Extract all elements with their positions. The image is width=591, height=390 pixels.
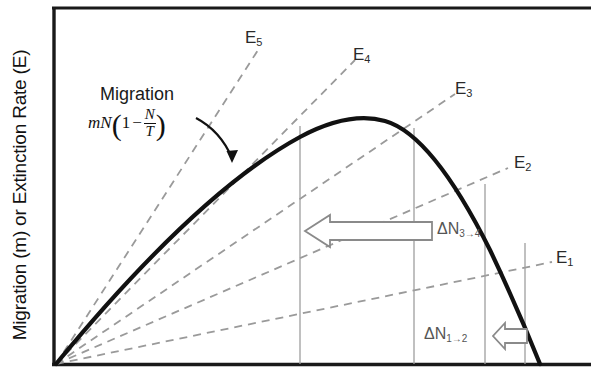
- label-E2-subscript: 2: [525, 161, 531, 173]
- label-E1-letter: E: [556, 248, 567, 267]
- label-E3-subscript: 3: [466, 87, 472, 99]
- formula-denominator: T: [144, 124, 156, 140]
- label-E5-subscript: 5: [256, 36, 262, 48]
- label-E3-letter: E: [455, 79, 466, 98]
- label-E2: E2: [514, 153, 531, 173]
- label-E4: E4: [353, 45, 370, 65]
- label-E1-subscript: 1: [567, 256, 573, 268]
- formula-minus: −: [130, 113, 144, 132]
- label-delta-n12-prefix: ΔN: [424, 325, 446, 342]
- label-E5-letter: E: [245, 28, 256, 47]
- migration-curve: [56, 118, 540, 364]
- delta-n12-arrow: [493, 323, 527, 349]
- figure-container: Migration (m) or Extinction Rate (E) Mig…: [0, 0, 591, 390]
- callout-arrow-head: [227, 150, 239, 163]
- formula-one: 1: [122, 113, 131, 132]
- migration-title: Migration: [100, 84, 174, 105]
- formula-close-paren: ): [156, 108, 166, 141]
- label-E5: E5: [245, 28, 262, 48]
- label-delta-n34-prefix: ΔN: [437, 220, 459, 237]
- label-E4-letter: E: [353, 45, 364, 64]
- plot-area: [0, 0, 591, 390]
- label-delta-n34-subscript: 3→4: [459, 228, 480, 239]
- label-delta-n12-subscript: 1→2: [446, 333, 467, 344]
- formula-numerator: N: [144, 107, 156, 124]
- delta-n34-arrow: [305, 215, 432, 247]
- formula-coefficient: mN: [88, 113, 112, 132]
- label-E1: E1: [556, 248, 573, 268]
- extinction-line-E4: [56, 60, 355, 364]
- formula-open-paren: (: [112, 108, 122, 141]
- label-delta-n34: ΔN3→4: [437, 220, 480, 238]
- formula-fraction: NT: [144, 107, 156, 140]
- label-E4-subscript: 4: [364, 53, 370, 65]
- label-E3: E3: [455, 79, 472, 99]
- label-E2-letter: E: [514, 153, 525, 172]
- label-delta-n12: ΔN1→2: [424, 325, 467, 343]
- migration-formula: mN(1−NT): [88, 108, 166, 142]
